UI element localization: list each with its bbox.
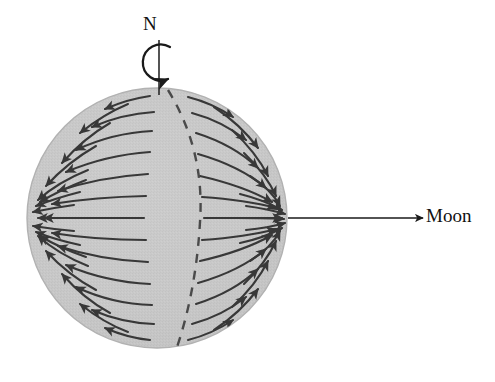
tidal-force-diagram [0, 0, 495, 382]
moon-label: Moon [426, 206, 471, 225]
rotation-direction-arrow [143, 44, 170, 80]
north-pole-label: N [143, 14, 157, 33]
